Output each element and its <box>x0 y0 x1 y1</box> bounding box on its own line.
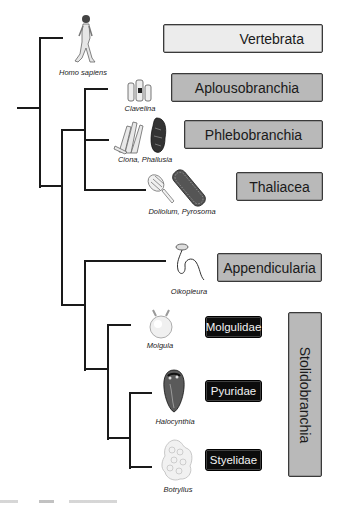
family-label-pyuridae: Pyuridae <box>211 385 256 397</box>
family-box-pyuridae: Pyuridae <box>205 380 262 402</box>
taxon-label-homo: Homo sapiens <box>59 68 107 77</box>
branch-doliolum <box>84 189 146 191</box>
branch-clavelina <box>84 88 108 90</box>
family-label-molgulidae: Molgulidae <box>206 321 262 333</box>
branch-stolidobranchia <box>84 368 109 370</box>
branch-botryllus <box>129 466 152 468</box>
clade-box-aplousobranchia: Aplousobranchia <box>171 73 323 102</box>
clade-box-appendicularia: Appendicularia <box>217 253 322 282</box>
family-box-molgulidae: Molgulidae <box>205 316 262 338</box>
tree-node-stolidobranchia <box>107 324 109 440</box>
branch-homo <box>39 37 63 39</box>
branch-molgula <box>107 324 131 326</box>
family-box-styelidae: Styelidae <box>205 449 262 471</box>
taxon-label-botryllus: Botryllus <box>164 485 193 494</box>
branch-tunicata <box>39 185 63 187</box>
tree-node-lower-tunicates <box>84 260 86 371</box>
tree-root-branch <box>17 107 41 109</box>
halocynthia-icon <box>162 368 186 414</box>
clade-label-vertebrata: Vertebrata <box>239 31 304 47</box>
clade-box-thaliacea: Thaliacea <box>236 172 323 201</box>
tree-node-chordata <box>39 37 41 188</box>
doliolum-pyrosoma-icon <box>146 165 220 209</box>
clade-label-phlebobranchia: Phlebobranchia <box>205 127 302 143</box>
taxon-label-ciona-phallusia: Ciona, Phallusia <box>118 155 172 164</box>
clade-box-vertebrata: Vertebrata <box>163 24 323 53</box>
clade-box-phlebobranchia: Phlebobranchia <box>184 120 323 149</box>
oikopleura-icon <box>172 242 206 282</box>
taxon-label-clavelina: Clavelina <box>125 104 156 113</box>
branch-upper-tunicates <box>61 129 86 131</box>
branch-oikopleura <box>84 260 166 262</box>
taxon-label-molgula: Molgula <box>147 341 173 350</box>
clavelina-icon <box>125 77 155 103</box>
tree-node-pyurid-styelid <box>129 392 131 469</box>
ciona-phallusia-icon <box>113 116 173 156</box>
clade-label-appendicularia: Appendicularia <box>223 260 316 276</box>
branch-ciona <box>84 139 109 141</box>
branch-pyurid-styelid <box>107 437 131 439</box>
molgula-icon <box>147 306 175 340</box>
clade-label-thaliacea: Thaliacea <box>249 179 310 195</box>
taxon-label-oikopleura: Oikopleura <box>171 287 207 296</box>
branch-lower-tunicates <box>61 304 86 306</box>
clade-label-aplousobranchia: Aplousobranchia <box>195 80 299 96</box>
branch-halocynthia <box>129 392 152 394</box>
truncated-caption-line <box>0 500 150 503</box>
taxon-label-doliolum-pyrosoma: Doliolum, Pyrosoma <box>148 207 215 216</box>
tree-node-tunicata <box>61 129 63 306</box>
family-label-styelidae: Styelidae <box>210 454 257 466</box>
clade-box-stolidobranchia: Stolidobranchia <box>288 312 322 477</box>
human-walking-icon <box>68 14 102 66</box>
clade-label-stolidobranchia: Stolidobranchia <box>297 346 313 443</box>
botryllus-icon <box>160 438 194 482</box>
taxon-label-halocynthia: Halocynthia <box>155 417 194 426</box>
